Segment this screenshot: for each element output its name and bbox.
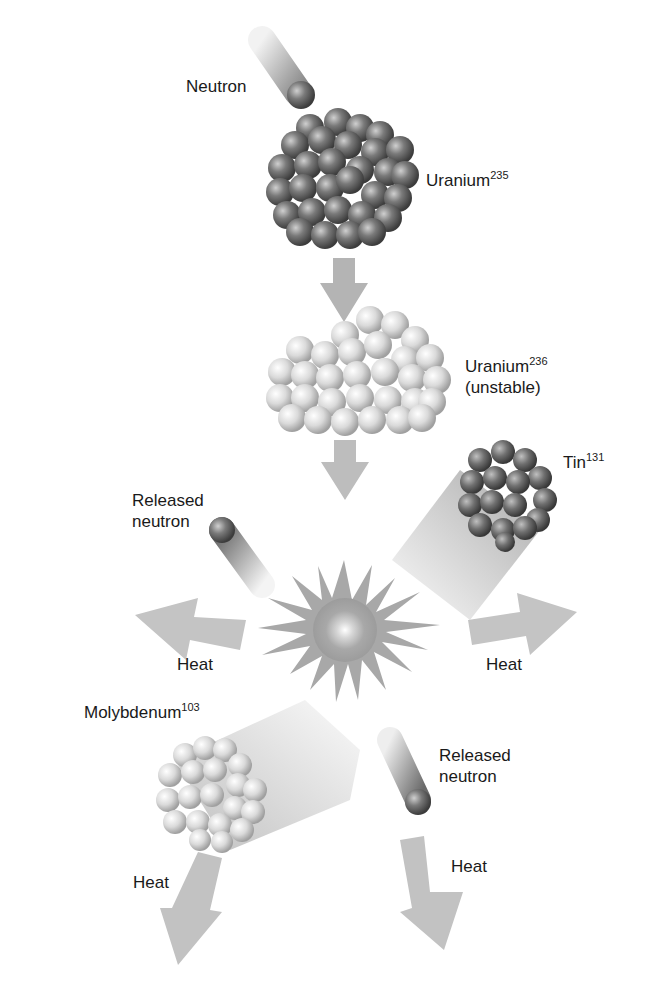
released-neutron-1-label: Released neutron [132, 490, 204, 532]
released-neutron-2-label: Released neutron [439, 745, 511, 787]
molybdenum-103-label: Molybdenum103 [84, 702, 200, 723]
tin-131-label: Tin131 [563, 452, 604, 473]
uranium-236-nucleus [266, 306, 451, 436]
fission-burst [258, 560, 440, 702]
heat-bottom-left-label: Heat [133, 872, 169, 893]
unstable-note: (unstable) [465, 377, 548, 398]
incoming-neutron [262, 40, 315, 109]
neutron-label: Neutron [186, 76, 246, 97]
heat-right-label: Heat [486, 654, 522, 675]
heat-bottom-right-label: Heat [451, 856, 487, 877]
uranium-235-nucleus [266, 108, 419, 249]
tin-131-fragment [392, 440, 557, 620]
heat-left-label: Heat [177, 654, 213, 675]
fission-diagram [0, 0, 668, 1000]
heat-arrow-bottom-right [400, 836, 463, 950]
heat-arrow-bottom-left [160, 852, 222, 965]
released-neutron-2 [390, 740, 431, 815]
uranium-235-label: Uranium235 [426, 170, 509, 191]
uranium-236-label: Uranium236 (unstable) [465, 356, 548, 398]
heat-arrow-right [468, 593, 577, 655]
released-neutron-1 [209, 517, 262, 585]
heat-arrow-left [135, 598, 246, 660]
down-arrow-2 [321, 440, 369, 500]
